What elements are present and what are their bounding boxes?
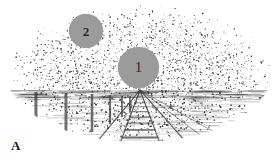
marker-label-1: 1 — [135, 60, 143, 75]
ground-layer — [1, 88, 279, 165]
ponzo-railway-figure: 1 2 A — [0, 0, 279, 165]
panel-label: A — [11, 138, 21, 154]
marker-disc-2: 2 — [69, 14, 103, 48]
marker-label-2: 2 — [83, 25, 90, 38]
marker-disc-1: 1 — [118, 47, 159, 88]
